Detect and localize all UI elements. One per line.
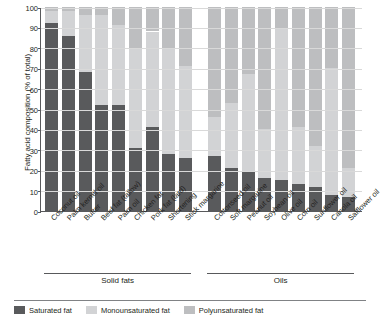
- legend-swatch: [14, 306, 25, 314]
- bar-segment: [79, 15, 92, 72]
- y-axis-tick-mark: [38, 48, 41, 49]
- x-axis-tick-labels: Coconut oilPalm kernel oilButterBeef fat…: [40, 214, 362, 276]
- group-labels: Solid fatsOils: [40, 276, 362, 292]
- gridline: [41, 171, 362, 172]
- legend-label: Saturated fat: [29, 306, 72, 315]
- y-axis-tick-mark: [38, 89, 41, 90]
- bar-segment: [292, 127, 305, 184]
- y-axis-tick-mark: [38, 130, 41, 131]
- legend-swatch: [86, 306, 97, 314]
- bar-segment: [112, 25, 125, 105]
- y-axis-tick-mark: [38, 212, 41, 213]
- group-label: Oils: [207, 276, 354, 285]
- legend-item: Saturated fat: [14, 306, 72, 315]
- gridline: [41, 150, 362, 151]
- bar-segment: [112, 7, 125, 25]
- group-bracket: [207, 273, 354, 274]
- y-axis-tick-mark: [38, 28, 41, 29]
- y-axis-tick-mark: [38, 191, 41, 192]
- bar-segment: [342, 7, 355, 168]
- bar-segment: [309, 146, 322, 187]
- bar-segment: [45, 23, 58, 211]
- group-bracket: [44, 273, 191, 274]
- bar-segment: [146, 32, 159, 128]
- y-axis-tick-mark: [38, 69, 41, 70]
- gridline: [41, 8, 362, 9]
- bar-segment: [325, 7, 338, 68]
- legend-label: Monounsaturated fat: [101, 306, 170, 315]
- bar-segment: [62, 11, 75, 35]
- bar-segment: [45, 11, 58, 23]
- gridline: [41, 69, 362, 70]
- gridline: [41, 110, 362, 111]
- bar-segment: [62, 36, 75, 211]
- plot-area: 0102030405060708090100: [40, 8, 362, 212]
- bar-segment: [129, 48, 142, 148]
- legend-item: Polyunsaturated fat: [184, 306, 264, 315]
- legend-swatch: [184, 306, 195, 314]
- y-axis-tick-mark: [38, 8, 41, 9]
- group-label: Solid fats: [44, 276, 191, 285]
- gridline: [41, 28, 362, 29]
- legend-item: Monounsaturated fat: [86, 306, 170, 315]
- y-axis-tick-mark: [38, 150, 41, 151]
- y-axis-tick-mark: [38, 171, 41, 172]
- bar-segment: [325, 68, 338, 194]
- bar-segment: [179, 66, 192, 158]
- bar-segment: [162, 48, 175, 154]
- bar-segment: [225, 103, 238, 168]
- legend-label: Polyunsaturated fat: [199, 306, 264, 315]
- bar-segment: [275, 7, 288, 29]
- chart-legend: Saturated fatMonounsaturated fatPolyunsa…: [14, 300, 366, 316]
- bar-segment: [242, 7, 255, 74]
- gridline: [41, 89, 362, 90]
- bar-segment: [179, 7, 192, 66]
- gridline: [41, 130, 362, 131]
- bar-segment: [275, 29, 288, 180]
- gridline: [41, 48, 362, 49]
- y-axis-tick-mark: [38, 110, 41, 111]
- bar-segment: [208, 7, 221, 117]
